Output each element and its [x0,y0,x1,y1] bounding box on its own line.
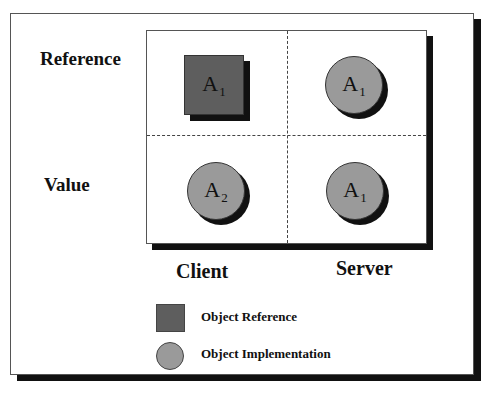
cell-glyph: A1 [202,73,225,98]
cell-glyph: A2 [204,179,227,204]
object-implementation-circle-client-value: A2 [187,162,245,220]
column-label-client: Client [176,260,228,283]
object-implementation-circle-server-reference: A1 [325,56,383,114]
legend-label-object-reference: Object Reference [201,309,297,325]
row-label-reference: Reference [40,48,121,70]
cell-glyph: A1 [343,179,366,204]
object-reference-square-client-reference: A1 [184,55,244,115]
legend-label-object-implementation: Object Implementation [201,346,331,362]
row-divider [147,135,426,136]
column-label-server: Server [336,257,393,280]
column-divider [287,31,288,243]
row-label-value: Value [44,174,90,196]
legend-circle-icon [156,342,184,370]
client-server-grid: A1 A1 A2 A1 [146,30,427,244]
cell-glyph: A1 [342,73,365,98]
object-implementation-circle-server-value: A1 [326,162,384,220]
legend-square-icon [156,304,185,332]
